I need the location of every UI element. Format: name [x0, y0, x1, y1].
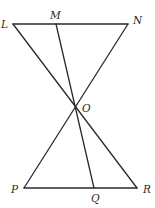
point-label-o: O: [82, 102, 91, 114]
point-label-m: M: [49, 9, 61, 21]
point-label-p: P: [10, 183, 19, 195]
segments-group: [13, 24, 137, 188]
segment-np: [24, 24, 128, 188]
point-label-l: L: [0, 18, 8, 30]
point-label-r: R: [142, 183, 151, 195]
point-label-q: Q: [91, 192, 100, 205]
point-label-n: N: [132, 14, 143, 26]
geometry-diagram: LMNOPQR: [0, 0, 155, 208]
